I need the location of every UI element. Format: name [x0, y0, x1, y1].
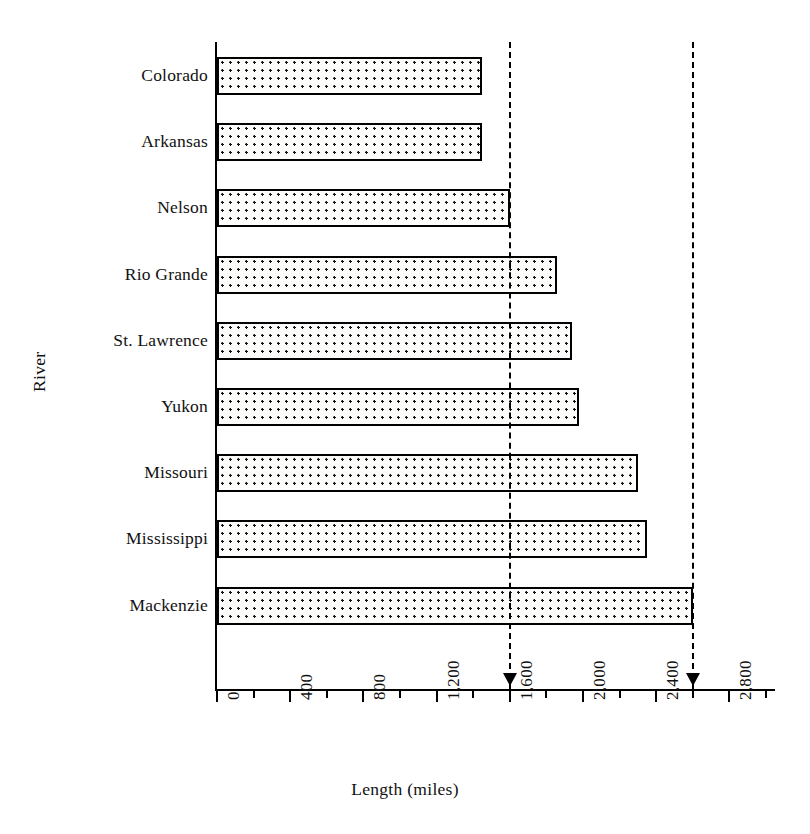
x-tick-label: 1,200 — [445, 660, 462, 700]
x-tick-minor — [399, 691, 401, 698]
x-tick-major — [509, 691, 511, 702]
x-tick-label: 2,400 — [664, 660, 681, 700]
x-tick-major — [436, 691, 438, 702]
bar-missouri — [217, 454, 638, 492]
bar-st-lawrence — [217, 322, 572, 360]
reference-line-2600 — [692, 42, 694, 689]
bar-colorado — [217, 57, 482, 95]
bar-rio-grande — [217, 256, 557, 294]
x-tick-minor — [253, 691, 255, 698]
category-label: St. Lawrence — [18, 332, 208, 350]
bar-arkansas — [217, 123, 482, 161]
bar-chart: ColoradoArkansasNelsonRio GrandeSt. Lawr… — [0, 0, 810, 834]
x-tick-label: 400 — [298, 674, 315, 700]
x-tick-minor — [472, 691, 474, 698]
category-label: Rio Grande — [18, 266, 208, 284]
bar-mackenzie — [217, 587, 693, 625]
bar-nelson — [217, 189, 510, 227]
category-label: Colorado — [18, 67, 208, 85]
bar-mississippi — [217, 520, 647, 558]
category-label: Mississippi — [18, 530, 208, 548]
x-axis-title: Length (miles) — [0, 779, 810, 800]
x-tick-label: 2,000 — [591, 660, 608, 700]
category-label: Arkansas — [18, 133, 208, 151]
x-tick-minor — [326, 691, 328, 698]
x-tick-major — [655, 691, 657, 702]
x-tick-major — [582, 691, 584, 702]
bar-yukon — [217, 388, 579, 426]
category-label: Mackenzie — [18, 597, 208, 615]
reference-line-1600 — [509, 42, 511, 689]
x-tick-minor — [765, 691, 767, 698]
x-tick-major — [216, 691, 218, 702]
x-tick-major — [362, 691, 364, 702]
category-label: Nelson — [18, 199, 208, 217]
x-tick-major — [728, 691, 730, 702]
x-tick-minor — [545, 691, 547, 698]
x-tick-minor — [619, 691, 621, 698]
reference-arrow-icon-1600 — [503, 673, 517, 686]
x-tick-major — [289, 691, 291, 702]
x-tick-minor — [692, 691, 694, 698]
reference-arrow-icon-2600 — [686, 673, 700, 686]
category-label: Yukon — [18, 398, 208, 416]
x-tick-label: 800 — [371, 674, 388, 700]
y-axis-title: River — [31, 352, 49, 392]
x-tick-label: 2,800 — [737, 660, 754, 700]
category-label: Missouri — [18, 464, 208, 482]
x-tick-label: 0 — [225, 691, 242, 700]
x-tick-label: 1,600 — [518, 660, 535, 700]
